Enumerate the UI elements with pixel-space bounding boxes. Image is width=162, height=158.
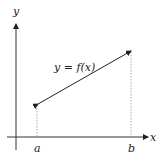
- function-line: [38, 51, 131, 104]
- a-label: a: [34, 142, 41, 155]
- x-axis-label: x: [150, 131, 157, 144]
- y-axis-label: y: [12, 5, 20, 18]
- b-label: b: [128, 142, 135, 155]
- function-diagram: y x y = f(x) a b: [0, 0, 162, 158]
- curve-label: y = f(x): [53, 61, 95, 74]
